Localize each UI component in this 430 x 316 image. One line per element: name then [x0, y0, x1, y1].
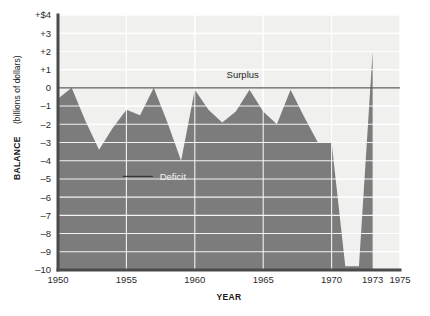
y-tick-label-3: +1 [40, 64, 51, 75]
y-tick-label-1: +3 [40, 28, 51, 39]
deficit-label: Deficit [160, 171, 187, 182]
y-tick-label-4: 0 [46, 82, 51, 93]
y-tick-label-13: –9 [40, 246, 51, 257]
y-tick-label-11: –7 [40, 210, 51, 221]
x-tick-label-1: 1955 [116, 274, 137, 285]
y-tick-label-12: –8 [40, 228, 51, 239]
x-tick-label-3: 1965 [253, 274, 274, 285]
balance-of-payments-chart: +$4+3+2+10–1–2–3–4–5–6–7–8–9–10 19501955… [0, 0, 430, 316]
y-tick-label-10: –6 [40, 192, 51, 203]
y-axis-title: BALANCE [12, 136, 22, 180]
x-tick-label-0: 1950 [47, 274, 68, 285]
y-tick-label-0: +$4 [35, 9, 51, 20]
x-tick-label-2: 1960 [184, 274, 205, 285]
x-tick-label-5: 1973 [362, 274, 383, 285]
y-tick-label-2: +2 [40, 46, 51, 57]
x-axis-title: YEAR [217, 292, 242, 302]
y-tick-label-5: –1 [40, 100, 51, 111]
y-axis-title-units: (billions of dollars) [12, 55, 22, 124]
y-tick-label-8: –4 [40, 155, 51, 166]
y-tick-label-9: –5 [40, 173, 51, 184]
y-tick-label-7: –3 [40, 137, 51, 148]
surplus-label: Surplus [227, 69, 259, 80]
y-tick-label-6: –2 [40, 119, 51, 130]
chart-canvas: +$4+3+2+10–1–2–3–4–5–6–7–8–9–10 19501955… [0, 0, 430, 316]
x-tick-label-6: 1975 [389, 274, 410, 285]
x-tick-label-4: 1970 [321, 274, 342, 285]
